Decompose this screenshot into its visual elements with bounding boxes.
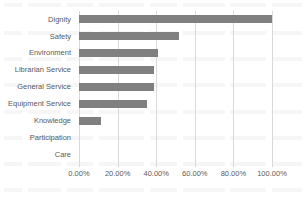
bar[interactable]	[79, 66, 154, 74]
x-axis-tick	[79, 163, 80, 167]
bar[interactable]	[79, 49, 158, 57]
x-axis-ticks	[79, 163, 272, 168]
category-label: Participation	[0, 129, 75, 146]
category-label: Librarian Service	[0, 62, 75, 79]
x-axis-tick-label: 20.00%	[105, 170, 130, 178]
bar[interactable]	[79, 100, 147, 108]
bar[interactable]	[79, 117, 101, 125]
category-label: Dignity	[0, 11, 75, 28]
category-label: Knowledge	[0, 112, 75, 129]
bar-row	[79, 62, 272, 79]
bar-row	[79, 112, 272, 129]
x-axis-tick	[233, 163, 234, 167]
x-axis-tick-label: 80.00%	[221, 170, 246, 178]
category-label: Equipment Service	[0, 95, 75, 112]
bar[interactable]	[79, 32, 179, 40]
bar-row	[79, 28, 272, 45]
x-axis-tick-label: 40.00%	[143, 170, 168, 178]
x-axis-tick-label: 100.00%	[257, 170, 287, 178]
bar-row	[79, 129, 272, 146]
category-label: Safety	[0, 28, 75, 45]
x-axis-tick	[156, 163, 157, 167]
x-axis-tick	[195, 163, 196, 167]
category-label: Environment	[0, 45, 75, 62]
bar-row	[79, 95, 272, 112]
x-axis-tick-label: 0.00%	[68, 170, 89, 178]
bar-row	[79, 79, 272, 96]
category-label: General Service	[0, 79, 75, 96]
bar-row	[79, 146, 272, 163]
x-axis-tick-label: 60.00%	[182, 170, 207, 178]
gridline	[272, 11, 273, 163]
bar[interactable]	[79, 83, 154, 91]
bar[interactable]	[79, 15, 272, 23]
x-axis-labels: 0.00%20.00%40.00%60.00%80.00%100.00%	[79, 170, 272, 182]
category-label: Care	[0, 146, 75, 163]
x-axis-tick	[118, 163, 119, 167]
bar-row	[79, 11, 272, 28]
bar-row	[79, 45, 272, 62]
plot-area	[79, 11, 272, 163]
category-axis: DignitySafetyEnvironmentLibrarian Servic…	[0, 11, 75, 163]
bar-chart: DignitySafetyEnvironmentLibrarian Servic…	[0, 0, 306, 197]
bar-series	[79, 11, 272, 163]
x-axis-tick	[272, 163, 273, 167]
